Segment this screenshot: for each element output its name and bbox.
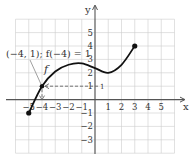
y-tick-label: −2 bbox=[80, 121, 93, 131]
x-tick-label: −2 bbox=[62, 102, 75, 112]
x-tick-label: 1 bbox=[106, 102, 111, 112]
function-graph: −5−4−3−2−11234554321−1−2−3 1 (−4, 1); f(… bbox=[0, 0, 194, 166]
guide-value-label: 1 bbox=[100, 83, 104, 91]
highlight-point-dot bbox=[40, 84, 45, 89]
endpoint-dot bbox=[132, 43, 137, 48]
x-tick-label: 4 bbox=[145, 102, 150, 112]
y-tick-label: −1 bbox=[80, 108, 93, 118]
endpoint-dot bbox=[26, 110, 31, 115]
y-tick-label: 5 bbox=[88, 28, 93, 38]
y-tick-label: −3 bbox=[80, 135, 93, 145]
x-tick-label: 5 bbox=[159, 102, 164, 112]
x-tick-label: 2 bbox=[119, 102, 124, 112]
y-axis-label: y bbox=[84, 4, 91, 15]
x-tick-label: 3 bbox=[132, 102, 137, 112]
function-label: f bbox=[43, 63, 50, 76]
annotation-leader bbox=[30, 60, 41, 84]
y-tick-label: 2 bbox=[88, 68, 93, 78]
x-tick-label: −3 bbox=[49, 102, 62, 112]
x-axis-label: x bbox=[183, 101, 189, 112]
x-tick-label: −4 bbox=[36, 102, 49, 112]
point-annotation: (−4, 1); f(−4) = 1 bbox=[6, 48, 91, 59]
axes bbox=[6, 5, 185, 154]
graph-svg: −5−4−3−2−11234554321−1−2−3 1 (−4, 1); f(… bbox=[0, 0, 194, 166]
